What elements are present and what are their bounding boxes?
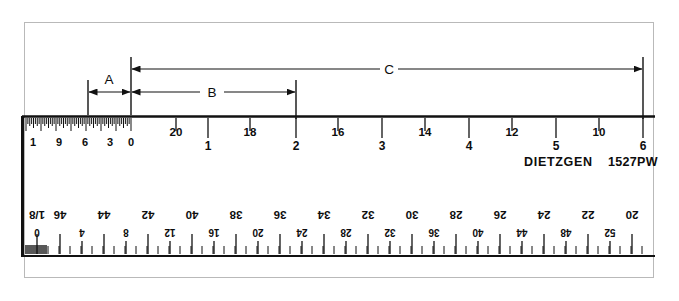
lower-scale-label-top: 34 xyxy=(317,209,330,221)
dimension-b: B xyxy=(132,85,295,100)
upper-scale-label-bottom: 4 xyxy=(466,139,473,153)
lower-scale-label-bottom: 40 xyxy=(472,227,484,238)
lower-scale-ticks xyxy=(26,234,642,254)
lower-scale-label-bottom: 52 xyxy=(604,227,616,238)
fine-scale-label: 0 xyxy=(128,136,134,148)
ruler-drawing: C A B 19630 201182163144125106 DIETZGEN xyxy=(0,0,679,301)
lower-scale-label-bottom: 0 xyxy=(34,227,40,238)
lower-scale-label-bottom: 48 xyxy=(560,227,572,238)
upper-scale-label-top: 14 xyxy=(419,126,432,138)
upper-scale-label-bottom: 5 xyxy=(553,139,560,153)
lower-scale-label-top: 42 xyxy=(142,209,155,221)
fine-scale-label: 9 xyxy=(56,136,62,148)
lower-scale-label-top: 24 xyxy=(537,209,550,221)
upper-scale-label-top: 10 xyxy=(593,126,606,138)
lower-scale-label-top: 46 xyxy=(54,209,67,221)
upper-scale-label-bottom: 3 xyxy=(379,139,386,153)
dimension-a-label: A xyxy=(104,72,113,87)
lower-scale-label-top: 40 xyxy=(186,209,199,221)
dimension-c: C xyxy=(132,62,642,77)
upper-scale-label-bottom: 2 xyxy=(293,139,300,153)
upper-scale-label-top: 12 xyxy=(506,126,519,138)
upper-scale-label-bottom: 1 xyxy=(205,139,212,153)
lower-scale-label-top: 36 xyxy=(274,209,287,221)
lower-scale-label-top: 20 xyxy=(626,209,639,221)
brand-label: DIETZGEN xyxy=(524,155,593,169)
lower-scale-label-top: 26 xyxy=(494,209,507,221)
lower-scale-label-bottom: 20 xyxy=(252,227,264,238)
upper-scale-label-top: 20 xyxy=(170,126,183,138)
fine-graduation-labels: 19630 xyxy=(30,136,134,148)
lower-scale-label-bottom: 28 xyxy=(340,227,352,238)
extension-lines xyxy=(88,57,643,119)
fine-scale-label: 6 xyxy=(82,136,88,148)
upper-scale-label-bottom: 6 xyxy=(640,139,647,153)
lower-scale-label-bottom: 12 xyxy=(164,227,176,238)
lower-scale-label-top: 32 xyxy=(362,209,375,221)
fine-graduation-ticks xyxy=(26,118,131,131)
upper-scale-label-top: 18 xyxy=(244,126,257,138)
lower-scale-label-top: 44 xyxy=(97,209,110,221)
lower-scale-label-top: 38 xyxy=(229,209,242,221)
dimension-b-label: B xyxy=(207,85,216,100)
lower-scale-label-top: 1/8 xyxy=(28,209,45,221)
lower-scale-label-top: 22 xyxy=(582,209,595,221)
lower-scale-label-bottom: 44 xyxy=(516,227,528,238)
upper-scale-label-top: 16 xyxy=(332,126,345,138)
lower-scale-label-top: 30 xyxy=(406,209,419,221)
fine-scale-label: 3 xyxy=(107,136,113,148)
upper-scale-labels: 201182163144125106 xyxy=(170,126,647,153)
model-label: 1527PW xyxy=(608,155,658,169)
lower-scale-labels: 1/80464448421240163820362434283232303628… xyxy=(28,209,638,238)
fine-scale-label: 1 xyxy=(30,136,36,148)
lower-scale-label-top: 28 xyxy=(449,209,462,221)
dimension-a: A xyxy=(89,72,130,92)
figure-canvas: C A B 19630 201182163144125106 DIETZGEN xyxy=(0,0,679,301)
lower-scale-label-bottom: 24 xyxy=(296,227,308,238)
lower-scale-label-bottom: 36 xyxy=(428,227,440,238)
dimension-c-label: C xyxy=(384,62,394,77)
maker-mark: DIETZGEN 1527PW xyxy=(524,155,658,169)
lower-scale-label-bottom: 32 xyxy=(384,227,396,238)
lower-scale-label-bottom: 8 xyxy=(123,227,129,238)
lower-scale-label-bottom: 4 xyxy=(79,227,85,238)
lower-scale-label-bottom: 16 xyxy=(208,227,220,238)
